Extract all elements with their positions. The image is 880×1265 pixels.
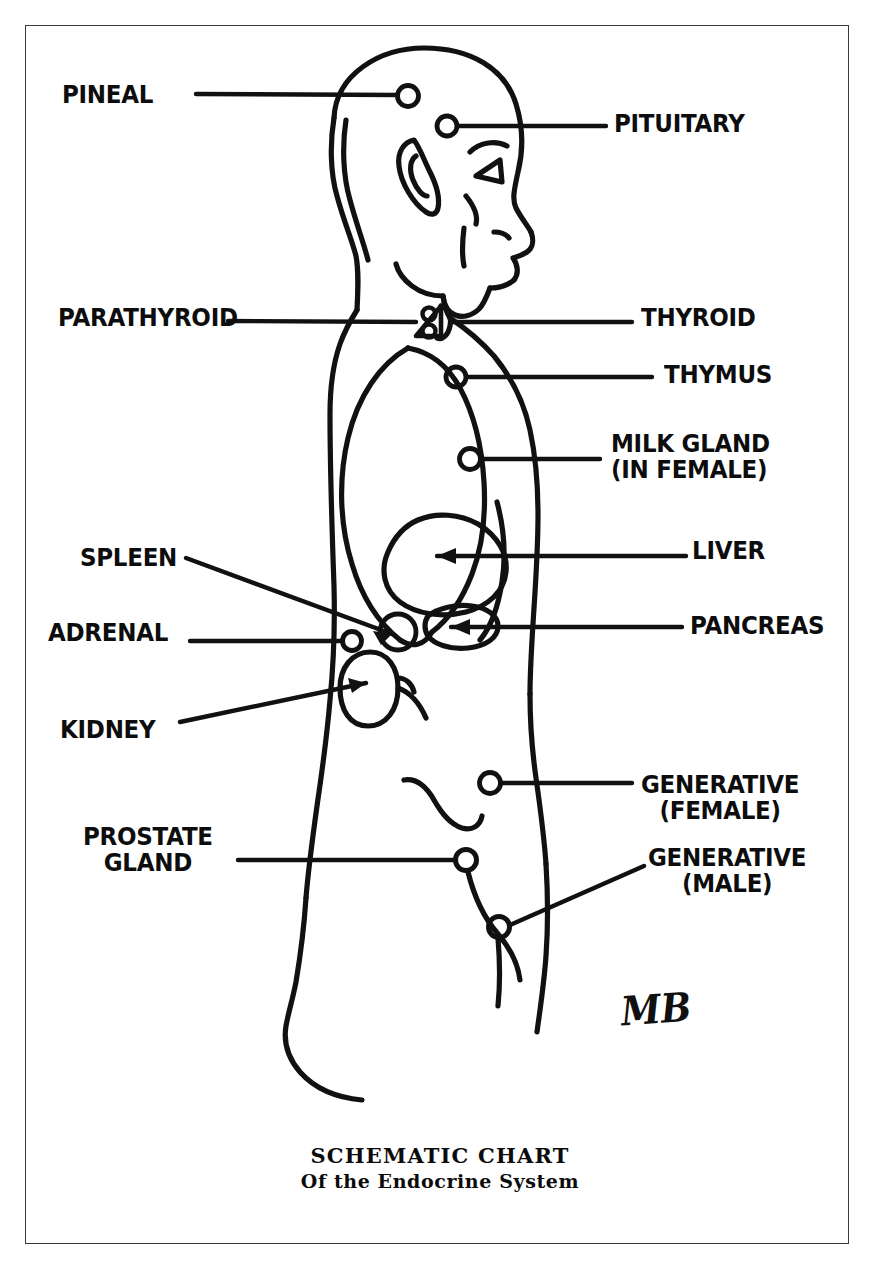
thyroid-parathyroid-cluster bbox=[416, 306, 451, 339]
label-spleen: SPLEEN bbox=[80, 545, 177, 571]
facial-feature-lines bbox=[463, 196, 510, 266]
label-parathyroid: PARATHYROID bbox=[58, 305, 238, 331]
ribcage-outline bbox=[342, 348, 504, 645]
eye-detail bbox=[470, 143, 507, 182]
label-kidney: KIDNEY bbox=[60, 717, 155, 743]
chart-subtitle: Of the Endocrine System bbox=[0, 1170, 880, 1192]
pelvic-inner-lines bbox=[404, 780, 520, 1006]
label-pineal: PINEAL bbox=[62, 82, 153, 108]
milk-gland-marker bbox=[460, 449, 481, 470]
liver-shape bbox=[384, 515, 506, 615]
label-generative-female: GENERATIVE (FEMALE) bbox=[641, 772, 799, 825]
endocrine-schematic-chart: PINEAL PARATHYROID SPLEEN ADRENAL KIDNEY… bbox=[0, 0, 880, 1265]
adrenal-marker bbox=[343, 632, 362, 651]
label-adrenal: ADRENAL bbox=[48, 620, 168, 646]
generative-female-marker bbox=[480, 773, 501, 794]
label-pituitary: PITUITARY bbox=[614, 111, 745, 137]
label-milk-gland: MILK GLAND (IN FEMALE) bbox=[611, 431, 770, 484]
pituitary-marker bbox=[437, 116, 457, 136]
artist-signature: MB bbox=[619, 983, 692, 1035]
prostate-marker bbox=[456, 850, 477, 871]
label-pancreas: PANCREAS bbox=[690, 613, 824, 639]
label-prostate-gland: PROSTATE GLAND bbox=[83, 824, 213, 877]
chart-title: SCHEMATIC CHART bbox=[0, 1143, 880, 1168]
ear-detail bbox=[399, 140, 439, 214]
label-liver: LIVER bbox=[692, 538, 765, 564]
label-thyroid: THYROID bbox=[641, 305, 756, 331]
label-generative-male: GENERATIVE (MALE) bbox=[648, 845, 806, 898]
pineal-marker bbox=[398, 86, 419, 107]
label-thymus: THYMUS bbox=[664, 362, 772, 388]
